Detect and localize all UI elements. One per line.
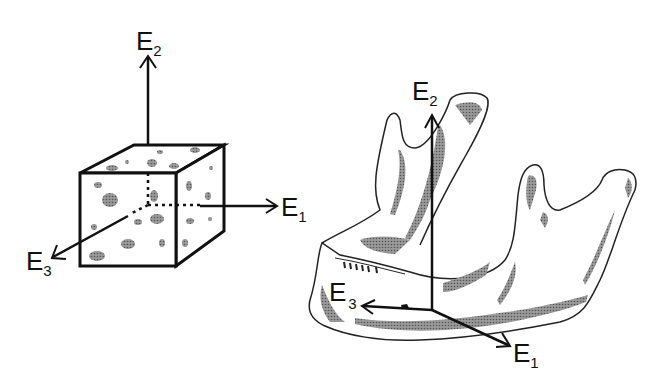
mandible-body bbox=[309, 165, 636, 341]
cube-e3-label: E3 bbox=[26, 246, 52, 279]
shade-4 bbox=[360, 237, 410, 254]
cube-diagram: E2 E1 E3 bbox=[26, 26, 307, 279]
cube-e1-label: E1 bbox=[281, 192, 307, 225]
diagram-canvas: E2 E1 E3 bbox=[0, 0, 666, 381]
mandible-e2-label: E2 bbox=[412, 76, 438, 109]
mandible-e1-label: E1 bbox=[513, 338, 539, 371]
mandible-diagram: E2 E3 E1 bbox=[309, 76, 636, 371]
cube-e2-label: E2 bbox=[136, 26, 162, 59]
